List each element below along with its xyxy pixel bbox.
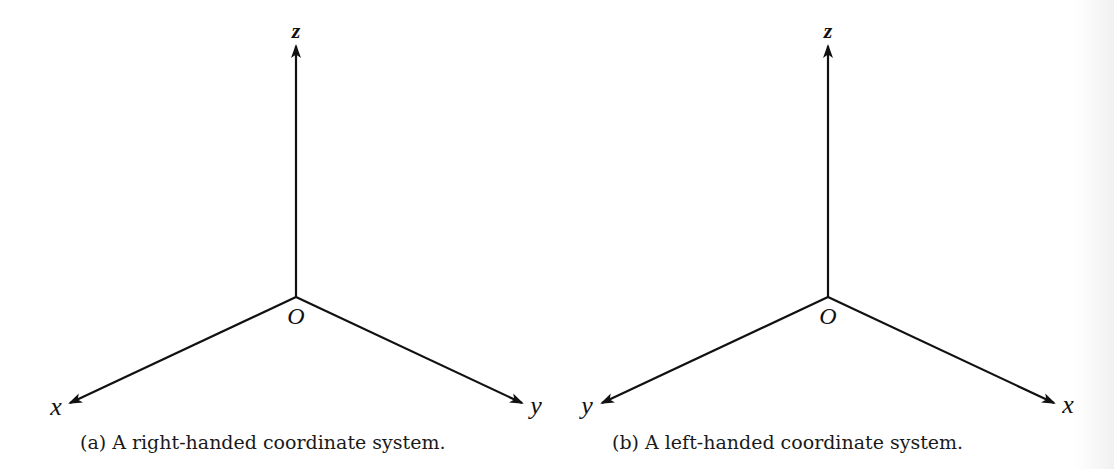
z-axis-label: z [291, 18, 301, 43]
x-axis-label: x [1061, 390, 1074, 419]
caption-panel-b: (b) A left-handed coordinate system. [612, 431, 963, 453]
x-axis-arrow [828, 297, 1054, 403]
z-axis-label: z [823, 18, 833, 43]
panel-a-right-handed: z x y O [49, 18, 542, 421]
y-axis-arrow [602, 297, 828, 403]
coordinate-systems-figure: z x y O z y x O [0, 0, 1114, 469]
y-axis-label: y [527, 391, 542, 420]
x-axis-label: x [49, 392, 62, 421]
y-axis-arrow [296, 297, 522, 403]
x-axis-arrow [70, 297, 296, 403]
origin-label: O [819, 303, 836, 329]
origin-label: O [287, 303, 304, 329]
caption-panel-a: (a) A right-handed coordinate system. [80, 431, 445, 453]
y-axis-label: y [578, 391, 593, 420]
panel-b-left-handed: z y x O [578, 18, 1074, 420]
